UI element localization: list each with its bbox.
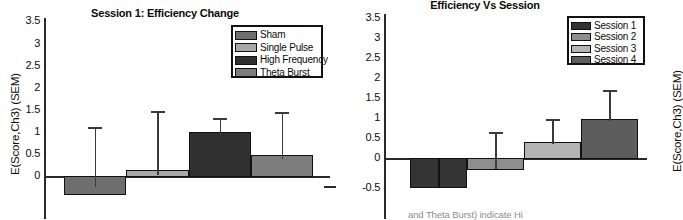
error-bar-stem-high-frequency [220, 118, 222, 136]
legend-item-theta-burst[interactable]: Theta Burst [235, 67, 319, 79]
legend-label-session-3: Session 3 [594, 44, 636, 54]
y-tick-left-0: 3.5 [4, 14, 40, 26]
legend-swatch-session-1 [571, 22, 591, 30]
error-bar-cap-theta-burst [275, 112, 289, 114]
y-tick-left-2: 2.5 [4, 59, 40, 71]
y-tick-left-1: 3 [4, 37, 40, 49]
y-tick-right-0: 3.5 [350, 11, 380, 23]
error-bar-cap-session-4 [603, 90, 617, 92]
bar-high-frequency[interactable] [189, 132, 251, 177]
legend-label-session-2: Session 2 [594, 32, 636, 42]
error-bar-stem-session-3 [552, 119, 554, 144]
error-bar-cap-sham [88, 127, 102, 129]
y-tick-right-2: 2.5 [350, 51, 380, 63]
y-tick-right-1: 3 [350, 31, 380, 43]
error-bar-divider-session-1 [438, 158, 440, 187]
legend-item-session-2[interactable]: Session 2 [571, 32, 641, 43]
legend-item-session-3[interactable]: Session 3 [571, 43, 641, 54]
bar-session-4[interactable] [581, 119, 638, 159]
page-caption-fragment: and Theta Burst) indicate Hi [408, 209, 658, 220]
y-tick-right-4: 1.5 [350, 91, 380, 103]
legend-item-high-frequency[interactable]: High Frequency [235, 54, 319, 66]
legend-label-theta-burst: Theta Burst [260, 68, 310, 78]
error-bar-stem-session-2 [495, 132, 497, 169]
legend-label-session-4: Session 4 [594, 55, 636, 65]
error-bar-stem-theta-burst [282, 112, 284, 159]
legend-label-sham: Sham [260, 30, 285, 40]
legend-label-high-frequency: High Frequency [260, 55, 328, 65]
legend-label-session-1: Session 1 [594, 21, 636, 31]
error-bar-stem-session-4 [609, 90, 611, 121]
legend-item-session-4[interactable]: Session 4 [571, 55, 641, 66]
legend-swatch-sham [235, 31, 257, 40]
y-tick-left-7: 0 [4, 169, 40, 181]
y-tick-left-4: 1.5 [4, 103, 40, 115]
error-bar-cap-session-2 [489, 132, 503, 134]
legend-swatch-session-3 [571, 45, 591, 53]
legend-item-single-pulse[interactable]: Single Pulse [235, 42, 319, 54]
y-axis-label-right: E(Score,Ch3) (SEM) [671, 70, 683, 172]
y-tick-left-3: 2 [4, 81, 40, 93]
legend-swatch-session-2 [571, 33, 591, 41]
error-bar-cap-single-pulse [151, 111, 165, 113]
legend-item-sham[interactable]: Sham [235, 29, 319, 41]
legend-left[interactable]: Sham Single Pulse High Frequency Theta B… [231, 25, 323, 78]
chart-panel-left: Session 1: Efficiency Change E(Score,Ch3… [0, 0, 330, 219]
legend-swatch-session-4 [571, 56, 591, 64]
error-bar-cap-high-frequency [213, 118, 227, 120]
error-bar-stem-single-pulse [157, 111, 159, 175]
page-edge-mark [324, 186, 336, 188]
y-tick-right-6: 0.5 [350, 131, 380, 143]
y-tick-left-5: 1 [4, 125, 40, 137]
legend-item-session-1[interactable]: Session 1 [571, 20, 641, 31]
y-tick-right-8: -0.5 [346, 181, 380, 193]
bar-session-3[interactable] [524, 142, 581, 159]
legend-swatch-high-frequency [235, 56, 257, 65]
y-tick-left-6: 0.5 [4, 147, 40, 159]
y-tick-right-5: 1 [350, 111, 380, 123]
legend-swatch-single-pulse [235, 43, 257, 52]
legend-swatch-theta-burst [235, 68, 257, 77]
error-bar-cap-session-3 [546, 119, 560, 121]
error-bar-stem-sham [95, 127, 97, 187]
y-tick-right-3: 2 [350, 71, 380, 83]
legend-label-single-pulse: Single Pulse [260, 43, 313, 53]
legend-right[interactable]: Session 1 Session 2 Session 3 Session 4 [567, 16, 645, 65]
y-tick-right-7: 0 [350, 151, 380, 163]
chart-panel-right: Efficiency Vs Session E(Score,Ch3) (SEM)… [330, 0, 647, 219]
